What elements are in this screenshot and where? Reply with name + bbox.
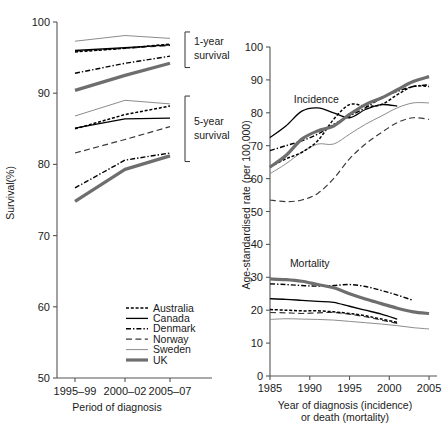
rates-x-tick-label: 1990: [298, 382, 322, 394]
survival-line-five-year-norway: [75, 127, 170, 153]
rates-y-tick-label: 50: [251, 206, 263, 218]
rates-x-tick-label: 1985: [258, 382, 282, 394]
rates-y-tick-label: 10: [251, 337, 263, 349]
five-year-bracket: [185, 96, 190, 162]
one-year-annotation-line1: 1-year: [194, 35, 224, 47]
survival-x-tick-label: 2005–07: [149, 385, 192, 397]
survival-y-tick-label: 80: [38, 158, 50, 170]
survival-line-one-year-canada: [75, 45, 170, 51]
rates-y-tick-label: 30: [251, 271, 263, 283]
survival-line-five-year-canada: [75, 118, 170, 128]
survival-line-one-year-uk: [75, 63, 170, 90]
rates-x-tick-label: 1995: [337, 382, 361, 394]
rates-x-tick-label: 2000: [377, 382, 401, 394]
survival-y-tick-label: 70: [38, 230, 50, 242]
rates-line-mortality-uk: [270, 279, 429, 314]
rates-y-tick-label: 0: [257, 370, 263, 382]
rates-y-tick-label: 40: [251, 238, 263, 250]
two-panel-figure: 50607080901001995–992000–022005–07Period…: [0, 0, 444, 441]
rates-line-mortality-norway: [270, 312, 397, 323]
rates-x-axis-title-line1: Year of diagnosis (incidence): [278, 399, 412, 411]
one-year-annotation-line2: survival: [194, 49, 230, 61]
rates-y-tick-label: 90: [251, 74, 263, 86]
survival-y-tick-label: 100: [32, 16, 50, 28]
five-year-annotation-line2: survival: [194, 129, 230, 141]
mortality-annotation: Mortality: [290, 257, 330, 269]
rates-x-tick-label: 2005: [417, 382, 441, 394]
rates-line-mortality-sweden: [270, 319, 429, 329]
rates-line-incidence-norway: [270, 118, 429, 202]
rates-y-tick-label: 60: [251, 173, 263, 185]
survival-line-one-year-sweden: [75, 36, 170, 42]
rates-x-axis-title-line2: or death (mortality): [301, 411, 389, 423]
survival-line-one-year-denmark: [75, 56, 170, 73]
figure-root: 50607080901001995–992000–022005–07Period…: [0, 0, 444, 441]
survival-y-tick-label: 60: [38, 301, 50, 313]
rates-y-tick-label: 80: [251, 107, 263, 119]
survival-x-axis-title: Period of diagnosis: [72, 401, 161, 413]
rates-y-axis-title: Age-standardised rate (per 100,000): [240, 120, 252, 289]
survival-y-axis-title: Survival(%): [4, 166, 16, 220]
survival-x-tick-label: 2000–02: [104, 385, 147, 397]
incidence-annotation: Incidence: [294, 93, 339, 105]
rates-y-tick-label: 70: [251, 140, 263, 152]
five-year-annotation-line1: 5-year: [194, 115, 224, 127]
legend-label-uk: UK: [153, 354, 168, 366]
survival-y-tick-label: 90: [38, 87, 50, 99]
survival-line-five-year-uk: [75, 156, 170, 202]
survival-x-tick-label: 1995–99: [54, 385, 97, 397]
rates-y-tick-label: 100: [245, 41, 263, 53]
survival-y-tick-label: 50: [38, 372, 50, 384]
one-year-bracket: [185, 32, 190, 68]
rates-line-incidence-canada: [270, 104, 397, 137]
rates-y-tick-label: 20: [251, 304, 263, 316]
